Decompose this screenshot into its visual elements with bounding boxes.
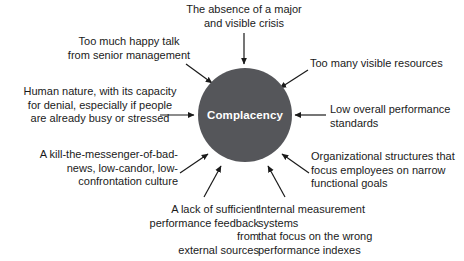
cause-label-kill-the-messenger-culture: A kill-the-messenger-of-bad- news, low-c… [20,148,178,189]
hub-complacency: Complacency [198,68,292,162]
arrow-lack-of-feedback [204,166,221,197]
cause-label-internal-measurement-systems: Internal measurement systems that focus … [258,203,398,257]
arrow-kill-the-messenger-culture [180,154,208,173]
cause-label-too-many-visible-resources: Too many visible resources [310,57,456,71]
arrow-too-many-visible-resources [280,70,308,88]
cause-label-organizational-structures: Organizational structures that focus emp… [311,150,461,191]
arrow-internal-measurement-systems [268,166,285,197]
cause-label-lack-of-feedback: A lack of sufficient performance feedbac… [125,203,259,257]
complacency-diagram: Complacency The absence of a major and v… [0,0,464,261]
hub-label: Complacency [207,109,283,122]
arrow-organizational-structures [282,154,309,173]
cause-label-absence-of-crisis: The absence of a major and visible crisi… [178,3,310,30]
arrow-too-much-happy-talk [186,64,212,83]
cause-label-too-much-happy-talk: Too much happy talk from senior manageme… [58,35,200,62]
cause-label-low-performance-standards: Low overall performance standards [330,103,458,130]
cause-label-human-nature-denial: Human nature, with its capacity for deni… [6,85,194,126]
